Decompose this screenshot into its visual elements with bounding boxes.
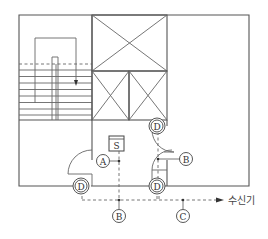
door-release-right-label: D [153,182,160,192]
stair-well [52,57,58,120]
svg-text:B: B [116,212,123,222]
svg-text:A: A [99,157,107,167]
wire-taps [110,158,184,209]
wire-label-b-bottom: B [113,210,126,223]
receiver-label: 수신기 [228,195,255,206]
stair-treads [19,70,92,120]
door-release-upper-label: D [153,122,160,132]
wire-label-b-right: B [180,153,193,166]
door-release-right: D [149,178,165,194]
floor-plan-diagram: S D D D A [0,0,268,239]
stairwell [19,15,92,120]
door-release-upper: D [149,118,165,134]
shaft-boxes [92,15,167,120]
smoke-detector: S [109,136,124,151]
outer-walls [19,15,249,186]
svg-text:C: C [180,212,187,222]
svg-text:B: B [183,155,190,165]
door-release-left-label: D [77,182,84,192]
wire-label-a: A [97,155,110,168]
stair-path [35,38,76,103]
receiver-arrow-icon [216,198,224,203]
smoke-detector-label: S [113,141,119,151]
door-release-left: D [73,178,89,194]
wire-label-c: C [177,210,190,223]
